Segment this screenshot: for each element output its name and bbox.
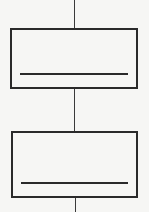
connector-bottom [75,198,76,212]
connector-top [74,0,75,29]
diagram-box-2 [11,131,138,198]
diagram-box-1 [10,28,138,89]
box-1-underline [20,73,128,75]
box-2-underline [21,182,128,184]
connector-middle [74,89,75,132]
